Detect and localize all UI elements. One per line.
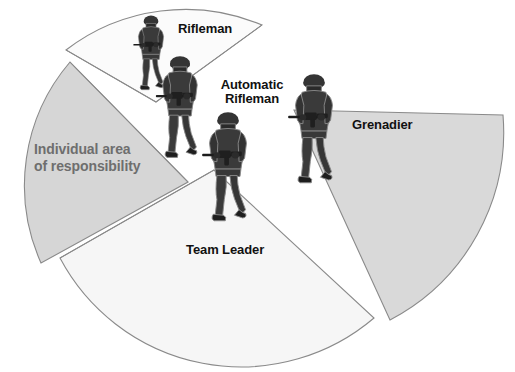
label-automatic-rifleman-line1: Automatic	[206, 78, 298, 92]
label-rifleman: Rifleman	[178, 22, 232, 36]
label-individual-area-line2: of responsibility	[34, 158, 164, 175]
label-individual-area-of-responsibility: Individual area of responsibility	[34, 141, 164, 175]
label-automatic-rifleman: Automatic Rifleman	[206, 78, 298, 106]
label-grenadier: Grenadier	[352, 118, 413, 132]
label-individual-area-line1: Individual area	[34, 141, 164, 158]
fire-team-sector-diagram: Rifleman Automatic Rifleman Grenadier Te…	[0, 0, 515, 372]
label-automatic-rifleman-line2: Rifleman	[206, 92, 298, 106]
sector-canvas	[0, 0, 515, 372]
label-team-leader: Team Leader	[186, 243, 264, 257]
